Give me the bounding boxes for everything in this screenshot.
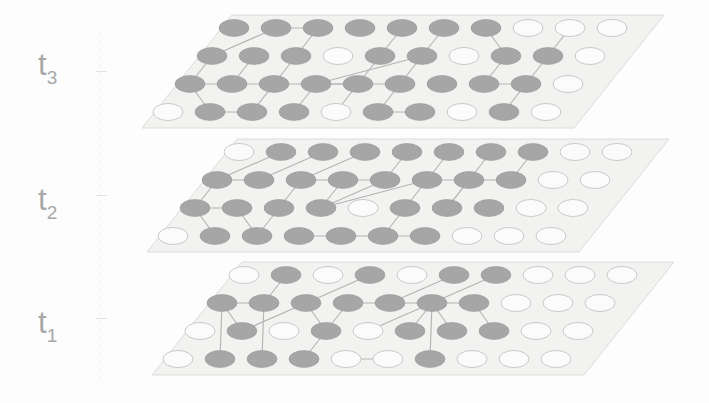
network-node-active (308, 144, 338, 161)
network-node-inactive (516, 200, 546, 217)
layer-label-subscript: 2 (47, 202, 58, 223)
network-node-active (469, 76, 499, 93)
network-node-active (345, 20, 375, 37)
network-node-active (306, 200, 336, 217)
network-node-active (197, 48, 227, 65)
network-node-active (368, 228, 398, 245)
network-node-active (489, 104, 519, 121)
network-node-active (281, 48, 311, 65)
figure-canvas: t3t2t1 (0, 0, 709, 403)
network-node-active (395, 323, 425, 340)
network-node-active (175, 76, 205, 93)
network-node-active (202, 172, 232, 189)
network-node-active (429, 20, 459, 37)
layer-label-t1: t1 (38, 305, 57, 346)
network-node-active (289, 351, 319, 368)
network-node-inactive (331, 351, 361, 368)
network-node-active (355, 267, 385, 284)
network-node-active (481, 267, 511, 284)
network-node-inactive (580, 172, 610, 189)
network-node-active (180, 200, 210, 217)
layer-label-t3: t3 (38, 47, 57, 88)
network-node-active (363, 104, 393, 121)
time-axis (96, 30, 107, 380)
network-node-inactive (575, 48, 605, 65)
network-node-active (491, 48, 521, 65)
network-node-active (474, 200, 504, 217)
network-node-active (392, 144, 422, 161)
network-node-active (239, 48, 269, 65)
network-node-inactive (585, 295, 615, 312)
network-node-active (219, 20, 249, 37)
network-node-active (222, 200, 252, 217)
network-node-active (375, 295, 405, 312)
network-node-active (459, 295, 489, 312)
network-node-active (237, 104, 267, 121)
network-node-inactive (321, 104, 351, 121)
network-node-inactive (565, 267, 595, 284)
network-node-inactive (397, 267, 427, 284)
network-node-active (454, 172, 484, 189)
network-node-active (291, 295, 321, 312)
network-node-active (432, 200, 462, 217)
network-node-active (271, 267, 301, 284)
network-node-active (264, 200, 294, 217)
network-node-inactive (521, 323, 551, 340)
network-node-inactive (185, 323, 215, 340)
network-node-inactive (158, 228, 188, 245)
network-node-inactive (558, 200, 588, 217)
network-node-active (370, 172, 400, 189)
network-node-active (390, 200, 420, 217)
network-node-inactive (447, 104, 477, 121)
network-layer-t3 (142, 15, 664, 128)
network-node-inactive (531, 104, 561, 121)
network-node-inactive (373, 351, 403, 368)
network-node-active (249, 295, 279, 312)
network-node-active (301, 76, 331, 93)
layer-labels: t3t2t1 (38, 47, 57, 346)
network-node-active (415, 351, 445, 368)
network-node-active (365, 48, 395, 65)
network-node-inactive (523, 267, 553, 284)
network-node-active (279, 104, 309, 121)
network-node-active (328, 172, 358, 189)
network-node-active (350, 144, 380, 161)
network-node-inactive (553, 76, 583, 93)
network-node-active (387, 20, 417, 37)
network-node-inactive (563, 323, 593, 340)
network-node-inactive (224, 144, 254, 161)
network-node-inactive (602, 144, 632, 161)
network-node-inactive (323, 48, 353, 65)
network-node-inactive (153, 104, 183, 121)
temporal-network-diagram: t3t2t1 (0, 0, 709, 403)
network-node-active (205, 351, 235, 368)
network-node-inactive (353, 323, 383, 340)
network-node-inactive (538, 172, 568, 189)
network-node-active (511, 76, 541, 93)
network-node-inactive (607, 267, 637, 284)
network-node-active (333, 295, 363, 312)
network-node-active (412, 172, 442, 189)
network-node-active (207, 295, 237, 312)
network-node-active (343, 76, 373, 93)
layer-label-subscript: 1 (47, 325, 58, 346)
network-node-inactive (269, 323, 299, 340)
network-node-inactive (536, 228, 566, 245)
network-node-active (405, 104, 435, 121)
network-node-active (427, 76, 457, 93)
network-node-active (326, 228, 356, 245)
network-node-inactive (560, 144, 590, 161)
network-node-inactive (449, 48, 479, 65)
network-node-active (407, 48, 437, 65)
network-node-active (533, 48, 563, 65)
network-node-active (437, 323, 467, 340)
layer-label-subscript: 3 (47, 67, 58, 88)
network-node-active (471, 20, 501, 37)
network-node-inactive (457, 351, 487, 368)
network-node-active (303, 20, 333, 37)
layer-label-t2: t2 (38, 182, 57, 223)
network-node-active (247, 351, 277, 368)
layer-stack (142, 15, 674, 375)
network-node-inactive (163, 351, 193, 368)
network-node-active (195, 104, 225, 121)
